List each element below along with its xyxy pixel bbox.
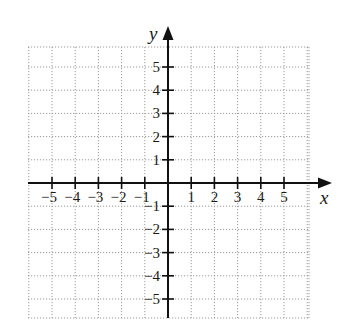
y-tick-label: 2 [153,129,161,145]
y-tick-label: 4 [153,82,161,98]
y-axis-arrow-icon [163,26,174,40]
x-tick-labels: −5−4−3−2−112345 [41,189,288,205]
y-tick-label: −1 [144,198,160,214]
x-tick-label: −4 [64,189,80,205]
y-tick-label: −5 [144,291,160,307]
x-tick-label: −5 [41,189,57,205]
y-tick-label: 1 [153,152,161,168]
y-axis-label: y [147,23,158,44]
axes [28,26,332,318]
y-tick-label: −4 [144,268,160,284]
y-tick-label: −2 [144,221,160,237]
x-tick-label: −3 [87,189,103,205]
y-tick-label: −3 [144,245,160,261]
coordinate-plane: −5−4−3−2−112345 −5−4−3−2−112345 x y [0,0,350,333]
x-tick-label: 1 [187,189,195,205]
x-axis-label: x [319,187,329,208]
x-tick-label: −2 [111,189,127,205]
x-tick-label: 5 [280,189,288,205]
x-tick-label: 4 [257,189,265,205]
x-tick-label: 3 [234,189,242,205]
y-tick-label: 5 [153,59,161,75]
x-tick-label: 2 [211,189,219,205]
y-tick-label: 3 [153,105,161,121]
